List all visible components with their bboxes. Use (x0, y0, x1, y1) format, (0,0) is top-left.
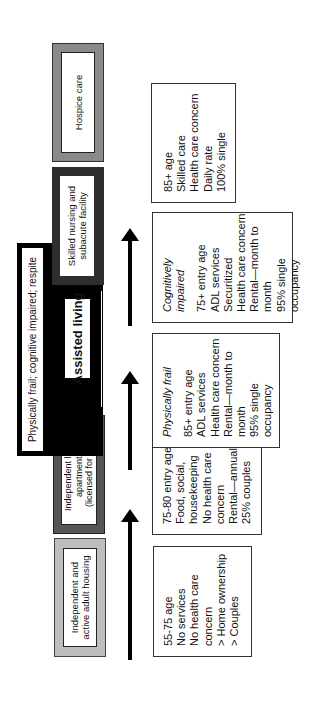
detail-heading: Cognitively impaired (161, 217, 187, 312)
detail-line: 75-80 entry age (161, 450, 174, 524)
detail-line: Rental—month to (248, 217, 261, 312)
stage-hospice-label: Hospice care (73, 75, 84, 130)
arrow-1 (128, 521, 132, 660)
detail-line: Securitized (222, 217, 235, 312)
detail-line: ADL services (209, 217, 222, 312)
assisted-living-edge (100, 290, 103, 408)
stage-label: Independent and active adult housing (63, 548, 97, 647)
detail-line: 95% single (248, 338, 261, 437)
detail-line: concern (214, 450, 227, 524)
detail-independent-active: 55-75 age No services No health care con… (153, 546, 252, 657)
assisted-living-title: Assisted living (72, 293, 83, 385)
detail-independent-living: 75-80 entry age Food, social, housekeepi… (152, 445, 262, 535)
detail-cognitively-impaired: Cognitively impaired 75+ entry age ADL s… (152, 212, 293, 323)
detail-line: Rental—annual (227, 450, 240, 524)
stage-label: Hospice care (61, 52, 95, 153)
detail-line: 25% couples (240, 450, 253, 524)
stage-label: Skilled nursing and subacute facility (60, 176, 94, 276)
detail-line: 95% single (275, 217, 288, 312)
detail-line: occupancy (261, 338, 274, 437)
continuum-of-care-diagram: Independent and active adult housing Ind… (0, 0, 313, 710)
detail-line: 85+ age (162, 88, 175, 192)
stage-independent-active-label: Independent and active adult housing (69, 556, 91, 640)
detail-line: Rental—month to (222, 338, 235, 437)
detail-line: No services (175, 551, 188, 646)
assisted-living-banner-text: Physically frail; cognitive impaired; re… (27, 257, 38, 442)
detail-line: Food, social, (174, 450, 187, 524)
stage-skilled-nursing: Skilled nursing and subacute facility (52, 167, 104, 285)
detail-line: occupancy (288, 217, 301, 312)
detail-line: Health care concern (188, 88, 201, 192)
stage-independent-active: Independent and active adult housing (54, 538, 106, 657)
detail-line: 75+ entry age (195, 217, 208, 312)
detail-heading: Physically frail (161, 338, 174, 437)
stage-skilled-nursing-label: Skilled nursing and subacute facility (66, 186, 88, 266)
arrow-3 (128, 240, 132, 326)
detail-line: month (261, 217, 274, 312)
stage-hospice: Hospice care (52, 43, 104, 162)
detail-line: 55-75 age (162, 551, 175, 646)
detail-line: Skilled care (175, 88, 188, 192)
assisted-living-banner: Physically frail; cognitive impaired; re… (22, 248, 43, 451)
detail-line: No health care (188, 551, 201, 646)
detail-line: ADL services (195, 338, 208, 437)
detail-skilled-nursing: 85+ age Skilled care Health care concern… (151, 83, 236, 203)
detail-line: Health care concern (235, 217, 248, 312)
detail-physically-frail: Physically frail 85+ entry age ADL servi… (152, 333, 280, 448)
detail-line: concern (202, 551, 215, 646)
detail-line: Health care concern (209, 338, 222, 437)
detail-line: No health care (201, 450, 214, 524)
detail-line: Daily rate (202, 88, 215, 192)
detail-line: housekeeping (187, 450, 200, 524)
detail-line: > Home ownership (215, 551, 228, 646)
detail-line: month (235, 338, 248, 437)
detail-line: > Couples (228, 551, 241, 646)
detail-line: 100% single (215, 88, 228, 192)
assisted-living-title-box: Assisted living (65, 299, 90, 378)
arrow-2 (128, 383, 132, 470)
detail-line: 85+ entry age (182, 338, 195, 437)
